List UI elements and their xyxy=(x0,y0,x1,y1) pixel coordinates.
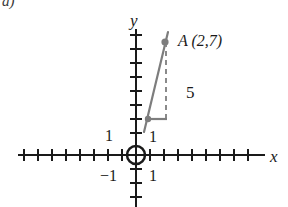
run-value-label: 1 xyxy=(149,129,157,145)
figure-canvas: a) xyxy=(0,0,288,207)
y-negative-unit-label: −1 xyxy=(100,168,117,184)
y-unit-label: 1 xyxy=(105,128,113,144)
rise-value-label: 5 xyxy=(186,84,195,101)
x-axis xyxy=(18,149,265,161)
x-unit-label: 1 xyxy=(149,168,157,184)
x-axis-label: x xyxy=(270,148,278,165)
point-marker-b xyxy=(145,116,151,122)
coordinate-plane-graphic xyxy=(0,0,288,207)
point-a-label: A (2,7) xyxy=(178,33,222,49)
y-axis-label: y xyxy=(130,12,138,29)
point-marker-a xyxy=(161,38,168,45)
y-axis xyxy=(130,29,142,207)
